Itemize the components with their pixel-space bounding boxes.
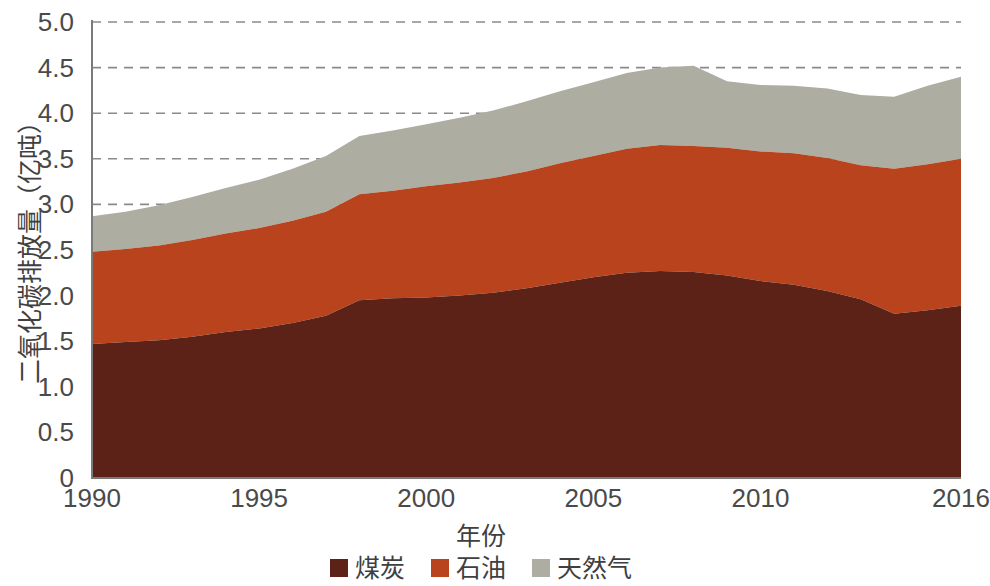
x-axis-line bbox=[91, 477, 961, 479]
legend-item[interactable]: 煤炭 bbox=[330, 556, 405, 581]
legend-label: 石油 bbox=[456, 556, 506, 581]
x-tick-label: 2000 bbox=[397, 484, 455, 514]
y-tick-label: 4.5 bbox=[38, 55, 74, 81]
y-tick-label: 1.5 bbox=[38, 328, 74, 354]
plot-svg bbox=[92, 0, 961, 479]
chart-legend: 煤炭石油天然气 bbox=[0, 552, 961, 584]
y-tick-label: 2.0 bbox=[38, 283, 74, 309]
x-tick-label: 1995 bbox=[230, 484, 288, 514]
y-tick-label: 4.0 bbox=[38, 100, 74, 126]
legend-swatch-icon bbox=[330, 559, 348, 577]
x-axis-tick-labels: 199019952000200520102016 bbox=[0, 484, 961, 518]
legend-swatch-icon bbox=[532, 559, 550, 577]
x-tick-label: 2010 bbox=[732, 484, 790, 514]
x-tick-label: 1990 bbox=[63, 484, 121, 514]
y-tick-label: 1.0 bbox=[38, 374, 74, 400]
legend-item[interactable]: 石油 bbox=[431, 556, 506, 581]
plot-area bbox=[92, 0, 961, 479]
y-tick-label: 3.5 bbox=[38, 146, 74, 172]
x-tick-label: 2005 bbox=[564, 484, 622, 514]
x-axis-title: 年份 bbox=[0, 516, 961, 552]
y-tick-label: 2.5 bbox=[38, 237, 74, 263]
legend-label: 煤炭 bbox=[355, 556, 405, 581]
y-tick-label: 0.5 bbox=[38, 419, 74, 445]
y-tick-label: 3.0 bbox=[38, 191, 74, 217]
y-tick-label: 5.0 bbox=[38, 9, 74, 35]
legend-item[interactable]: 天然气 bbox=[532, 556, 632, 581]
legend-swatch-icon bbox=[431, 559, 449, 577]
legend-label: 天然气 bbox=[557, 556, 632, 581]
x-tick-label: 2016 bbox=[932, 484, 990, 514]
y-axis-line bbox=[91, 20, 93, 479]
